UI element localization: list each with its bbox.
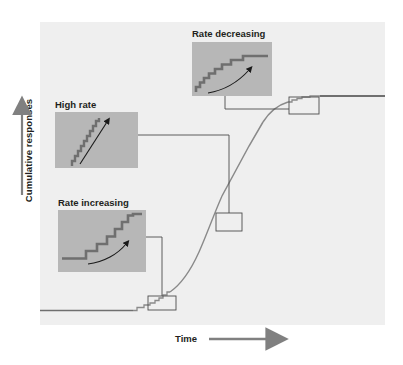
inset-title-rate-decreasing: Rate decreasing xyxy=(192,28,265,39)
inset-panel-rate-decreasing xyxy=(192,42,272,96)
figure-cumulative-record: Cumulative responses Time Rate increasin… xyxy=(0,0,403,365)
inset-title-high-rate: High rate xyxy=(55,99,96,110)
y-axis-label: Cumulative responses xyxy=(23,71,34,231)
x-axis-label: Time xyxy=(175,333,197,344)
inset-title-rate-increasing: Rate increasing xyxy=(58,197,129,208)
inset-panel-rate-increasing xyxy=(58,210,146,272)
inset-panel-high-rate xyxy=(55,112,138,168)
